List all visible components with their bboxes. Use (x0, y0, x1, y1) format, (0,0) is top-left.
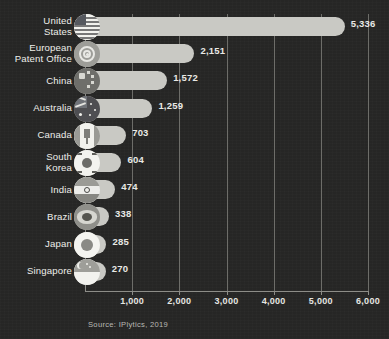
bar-row[interactable]: 270 (85, 262, 389, 288)
category-label: Australia (33, 102, 72, 113)
bar-value-label: 2,151 (200, 45, 225, 56)
category-label: China (46, 75, 72, 86)
tick-5000 (321, 291, 322, 295)
x-tick-label-1000: 1,000 (120, 296, 144, 306)
category-label: Japan (45, 238, 72, 249)
bar-value-label: 5,336 (351, 18, 376, 29)
bar-row[interactable]: 2,151 (85, 44, 389, 70)
source-note: Source: IPlytics, 2019 (88, 320, 168, 329)
bar[interactable] (85, 44, 194, 63)
bar-value-label: 703 (132, 127, 148, 138)
flag-japan-icon (74, 232, 100, 258)
bar-row[interactable]: 5,336 (85, 17, 389, 43)
bar-chart: 5,336United States2,151European Patent O… (0, 0, 389, 339)
x-tick-label-6000: 6,000 (356, 296, 380, 306)
x-tick-label-2000: 2,000 (167, 296, 191, 306)
bar-value-label: 285 (112, 236, 128, 247)
flag-singapore-icon (74, 259, 100, 285)
bar-row[interactable]: 338 (85, 207, 389, 233)
bar-row[interactable]: 604 (85, 153, 389, 179)
category-label: United States (43, 15, 72, 37)
bar-value-label: 338 (115, 208, 131, 219)
flag-india-icon (74, 177, 100, 203)
x-tick-label-4000: 4,000 (262, 296, 286, 306)
bar-row[interactable]: 285 (85, 235, 389, 261)
bar-value-label: 270 (112, 263, 128, 274)
flag-china-icon (74, 68, 100, 94)
category-label: European Patent Office (15, 42, 72, 64)
tick-4000 (274, 291, 275, 295)
x-tick-label-5000: 5,000 (309, 296, 333, 306)
tick-2000 (179, 291, 180, 295)
bar-value-label: 474 (121, 181, 137, 192)
flag-united-states-icon (74, 14, 100, 40)
flag-south-korea-icon (74, 150, 100, 176)
tick-1000 (132, 291, 133, 295)
bar-row[interactable]: 703 (85, 126, 389, 152)
flag-brazil-icon (74, 204, 100, 230)
bar-row[interactable]: 1,259 (85, 99, 389, 125)
bar-row[interactable]: 474 (85, 180, 389, 206)
bar-row[interactable]: 1,572 (85, 71, 389, 97)
tick-3000 (227, 291, 228, 295)
category-label: South Korea (46, 151, 72, 173)
category-label: India (50, 184, 72, 195)
flag-european-patent-office-icon (74, 41, 100, 67)
bar-value-label: 1,259 (158, 100, 183, 111)
bar-value-label: 604 (127, 154, 143, 165)
flag-australia-icon (74, 96, 100, 122)
bar-value-label: 1,572 (173, 72, 198, 83)
category-label: Brazil (47, 211, 72, 222)
flag-canada-icon (74, 123, 100, 149)
tick-6000 (368, 291, 369, 295)
category-label: Canada (37, 129, 72, 140)
bar[interactable] (85, 17, 345, 36)
category-label: Singapore (27, 265, 72, 276)
x-tick-label-3000: 3,000 (214, 296, 238, 306)
